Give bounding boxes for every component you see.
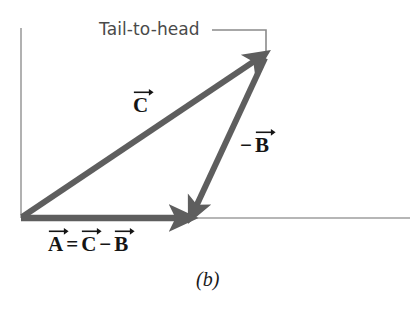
minus-sign: − [237,133,255,158]
equation-a-letter: A [48,232,63,257]
equation-c-glyph-group: C [81,232,96,257]
equation-b-letter: B [114,232,128,257]
vector-c-label-glyph-group: C [133,93,148,118]
equation-b-glyph-group: B [114,232,128,257]
vector-c-arrow [22,58,259,217]
tail-to-head-annotation-label: Tail-to-head [99,19,200,39]
equation-a-glyph-group: A [48,232,63,257]
vector-diagram-figure: Tail-to-head C −B A =C −B (b) [0,0,416,309]
equals-sign: = [63,232,81,257]
vector-b-label-glyph-group: B [255,133,269,158]
vector-diagram-canvas [0,0,416,309]
panel-caption: (b) [196,268,219,291]
vector-minus-b-label: −B [237,133,269,158]
tail-to-head-leader-line [212,30,266,52]
equation-minus-sign: − [96,232,114,257]
vector-equation-label: A =C −B [48,232,128,257]
vector-c-label: C [133,93,148,118]
equation-c-letter: C [81,232,96,257]
vector-c-letter: C [133,93,148,118]
vector-b-letter: B [255,133,269,158]
